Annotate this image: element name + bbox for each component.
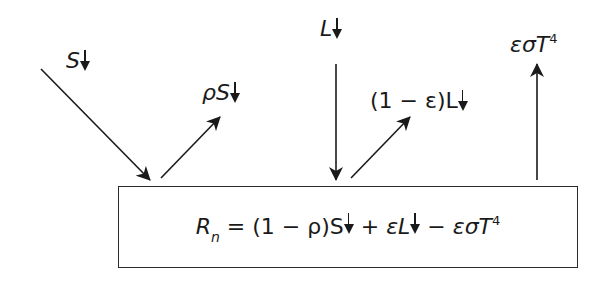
shortwave-symbol: S	[216, 80, 230, 105]
exponent: 4	[549, 31, 557, 46]
down-arrow-icon	[458, 90, 468, 112]
incoming-shortwave-label: S	[66, 50, 90, 72]
eq-lhs: R	[196, 214, 211, 239]
eq-lhs-subscript: n	[211, 229, 220, 245]
longwave-symbol: L	[320, 16, 332, 41]
net-radiation-equation: Rn = (1 − ρ)S + εL − εσT4	[119, 213, 577, 245]
eq-term3-exponent: 4	[492, 213, 500, 228]
eq-minus: −	[420, 214, 452, 239]
incoming-longwave-label: L	[320, 18, 342, 40]
reflected-longwave-arrow	[351, 117, 410, 178]
emission-term: εσT	[510, 32, 549, 57]
down-arrow-icon	[410, 213, 420, 235]
reflected-shortwave-label: ρS	[202, 82, 240, 104]
emitted-longwave-label: εσT4	[510, 32, 558, 56]
albedo-symbol: ρ	[202, 80, 216, 105]
eq-term2: εL	[386, 214, 410, 239]
down-arrow-icon	[230, 82, 240, 104]
emissivity-factor: (1 − ε)	[370, 88, 445, 113]
eq-equals: =	[220, 214, 252, 239]
eq-term1: (1 − ρ)S	[252, 214, 344, 239]
reflected-longwave-label: (1 − ε)L	[370, 90, 468, 112]
shortwave-symbol: S	[66, 48, 80, 73]
incoming-shortwave-arrow	[41, 69, 150, 180]
equation-box: Rn = (1 − ρ)S + εL − εσT4	[118, 186, 578, 268]
down-arrow-icon	[80, 50, 90, 72]
reflected-shortwave-arrow	[161, 117, 220, 178]
longwave-symbol: L	[445, 88, 457, 113]
eq-term3: εσT	[453, 214, 492, 239]
down-arrow-icon	[332, 18, 342, 40]
eq-plus: +	[354, 214, 386, 239]
down-arrow-icon	[344, 213, 354, 235]
